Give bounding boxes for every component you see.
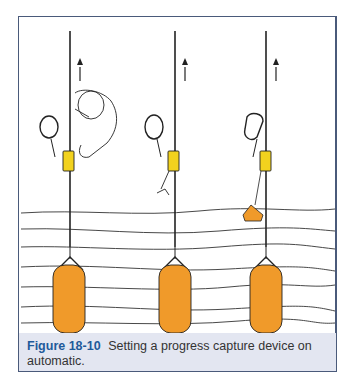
arrow-up-icon	[77, 58, 83, 81]
panel-2	[145, 31, 191, 333]
figure-illustration	[19, 17, 336, 333]
figure-frame: Figure 18-10 Setting a progress capture …	[18, 16, 337, 372]
figure-caption: Figure 18-10 Setting a progress capture …	[19, 333, 336, 371]
arrow-up-icon	[273, 58, 279, 81]
arrow-up-icon	[182, 58, 188, 81]
panel-3	[243, 31, 282, 333]
figure-label: Figure 18-10	[27, 339, 101, 353]
